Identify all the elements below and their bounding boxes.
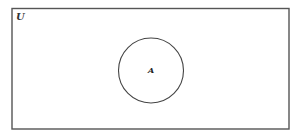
universal-set-label: U <box>16 11 26 22</box>
set-a-label: A <box>147 65 154 75</box>
venn-diagram: U A <box>0 0 299 137</box>
